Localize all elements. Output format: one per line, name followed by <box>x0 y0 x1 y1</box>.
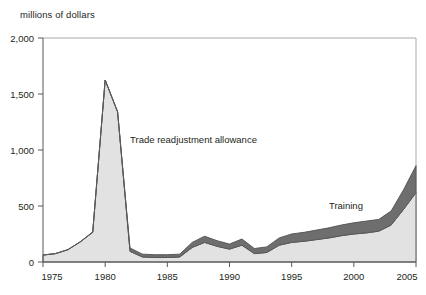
x-tick-label: 2005 <box>396 271 417 282</box>
chart-container: millions of dollars 05001,0001,5002,000 … <box>0 0 426 295</box>
series-group <box>43 80 416 262</box>
x-tick-label: 1980 <box>95 271 116 282</box>
x-tick-label: 2000 <box>343 271 364 282</box>
y-tick-label: 500 <box>18 201 34 212</box>
series-annotations: Trade readjustment allowanceTraining <box>130 134 363 211</box>
area-chart: 05001,0001,5002,000 19751980198519901995… <box>0 0 426 295</box>
x-tick-label: 1985 <box>157 271 178 282</box>
trade-readjustment-allowance-area <box>43 80 416 262</box>
x-tick-label: 1975 <box>41 271 62 282</box>
annotation-training: Training <box>329 200 363 211</box>
y-tick-label: 1,500 <box>10 89 34 100</box>
annotation-trade-readjustment-allowance: Trade readjustment allowance <box>130 134 257 145</box>
x-tick-label: 1990 <box>219 271 240 282</box>
y-tick-label: 2,000 <box>10 33 34 44</box>
y-tick-label: 0 <box>29 257 34 268</box>
x-tick-label: 1995 <box>281 271 302 282</box>
y-tick-label: 1,000 <box>10 145 34 156</box>
y-axis-ticks: 05001,0001,5002,000 <box>10 33 43 268</box>
x-axis-ticks: 1975198019851990199520002005 <box>41 262 417 282</box>
